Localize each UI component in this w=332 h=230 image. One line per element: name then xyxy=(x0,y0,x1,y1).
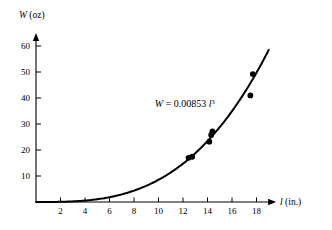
y-tick-label: 40 xyxy=(21,93,31,103)
data-point xyxy=(210,128,216,134)
y-axis-label: W (oz) xyxy=(19,10,45,21)
y-tick-label: 20 xyxy=(21,145,31,155)
x-tick-label: 16 xyxy=(228,206,238,216)
x-tick-label: 8 xyxy=(132,206,137,216)
x-tick-label: 10 xyxy=(154,206,164,216)
y-tick-label: 30 xyxy=(21,119,31,129)
data-point xyxy=(206,139,212,145)
chart-canvas: 24681012141618102030405060 W (oz)l (in.)… xyxy=(0,0,332,230)
fit-curve xyxy=(36,50,269,202)
fit-equation: W = 0.00853 l3 xyxy=(155,98,215,109)
y-tick-label: 50 xyxy=(21,67,31,77)
x-axis-arrowhead-icon xyxy=(268,199,276,205)
tick-labels-layer: 24681012141618102030405060 xyxy=(21,41,262,216)
x-tick-label: 18 xyxy=(252,206,262,216)
x-tick-label: 4 xyxy=(83,206,88,216)
data-point xyxy=(250,71,256,77)
annotations-layer: W = 0.00853 l3 xyxy=(155,98,215,109)
x-tick-label: 2 xyxy=(58,206,63,216)
chart-figure: 24681012141618102030405060 W (oz)l (in.)… xyxy=(0,0,332,230)
data-points-layer xyxy=(186,71,256,161)
data-point xyxy=(247,93,253,99)
axes-layer xyxy=(33,33,276,205)
x-axis-label: l (in.) xyxy=(280,197,301,208)
x-tick-label: 6 xyxy=(107,206,112,216)
x-tick-label: 12 xyxy=(179,206,188,216)
fit-curve-path xyxy=(36,50,269,202)
y-tick-label: 10 xyxy=(21,171,31,181)
x-tick-label: 14 xyxy=(203,206,213,216)
y-tick-label: 60 xyxy=(21,41,31,51)
y-axis-arrowhead-icon xyxy=(33,33,39,41)
data-point xyxy=(189,154,195,160)
